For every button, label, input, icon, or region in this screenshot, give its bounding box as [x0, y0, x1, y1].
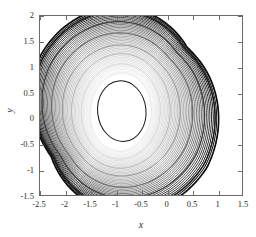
y-tick-label: 1 — [6, 62, 34, 71]
x-tick-mark — [219, 16, 220, 20]
y-tick-mark — [40, 94, 44, 95]
y-tick-label: 1.5 — [6, 36, 34, 45]
x-tick-mark — [40, 191, 41, 195]
figure: -2.5-2-1.5-1-0.500.511.5-1.5-1-0.500.511… — [0, 0, 256, 237]
y-tick-label: -1.5 — [6, 192, 34, 201]
y-tick-mark — [40, 171, 44, 172]
x-tick-label: -1.5 — [83, 200, 96, 209]
y-tick-mark — [238, 42, 242, 43]
x-tick-mark — [117, 16, 118, 20]
x-tick-mark — [168, 16, 169, 20]
x-tick-label: 1.5 — [238, 200, 249, 209]
y-tick-label: 0.5 — [6, 88, 34, 97]
x-tick-label: -1 — [112, 200, 119, 209]
x-tick-mark — [168, 191, 169, 195]
x-tick-mark — [142, 16, 143, 20]
y-tick-mark — [238, 145, 242, 146]
y-tick-label: -0.5 — [6, 140, 34, 149]
y-tick-mark — [40, 145, 44, 146]
y-tick-mark — [238, 119, 242, 120]
x-tick-label: 0.5 — [187, 200, 198, 209]
y-tick-mark — [40, 68, 44, 69]
x-tick-label: 0 — [164, 200, 168, 209]
y-tick-mark — [40, 119, 44, 120]
x-tick-mark — [91, 191, 92, 195]
x-tick-mark — [219, 191, 220, 195]
x-tick-mark — [142, 191, 143, 195]
x-tick-mark — [193, 16, 194, 20]
y-tick-label: 0 — [6, 114, 34, 123]
y-tick-mark — [238, 171, 242, 172]
x-tick-label: 1 — [215, 200, 219, 209]
x-tick-label: -2 — [61, 200, 68, 209]
x-tick-label: -0.5 — [134, 200, 147, 209]
plot-area — [39, 15, 243, 196]
y-tick-label: -1 — [6, 166, 34, 175]
x-tick-mark — [91, 16, 92, 20]
x-axis-label: x — [139, 219, 143, 230]
y-tick-label: 2 — [6, 11, 34, 20]
trajectory-core-hole — [95, 78, 149, 143]
x-tick-mark — [66, 191, 67, 195]
y-tick-mark — [238, 16, 242, 17]
y-tick-mark — [40, 16, 44, 17]
x-tick-mark — [193, 191, 194, 195]
y-tick-mark — [238, 94, 242, 95]
y-tick-mark — [40, 42, 44, 43]
x-tick-mark — [66, 16, 67, 20]
y-tick-mark — [238, 68, 242, 69]
x-tick-label: -2.5 — [32, 200, 45, 209]
trajectory-canvas — [40, 16, 242, 195]
y-axis-label: y — [4, 108, 15, 112]
x-tick-mark — [117, 191, 118, 195]
